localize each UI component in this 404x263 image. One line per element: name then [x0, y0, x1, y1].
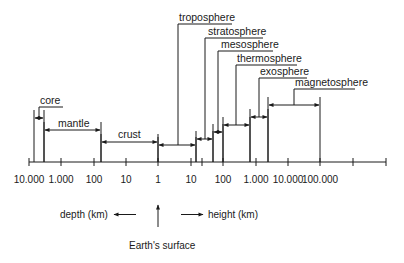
layer-label: troposphere — [179, 11, 235, 23]
layer-label: stratosphere — [208, 25, 267, 37]
axis-tick-label: 10.000 — [273, 174, 304, 185]
axis-tick-label: 1 — [155, 174, 161, 185]
layer-label: crust — [118, 128, 141, 140]
layer-label: thermosphere — [237, 52, 302, 64]
axis-tick-label: 100 — [86, 174, 103, 185]
earth-atmosphere-layers-diagram: coremantlecrusttropospherestratosphereme… — [0, 0, 404, 263]
axis-tick-label: 100.000 — [302, 174, 339, 185]
layer-label: mesosphere — [221, 38, 279, 50]
log-scale-axis: 10.0001.000100101101001.00010.000100.000 — [14, 158, 386, 185]
axis-tick-label: 1.000 — [243, 174, 268, 185]
layer-mantle: mantle — [44, 117, 101, 162]
direction-legend: depth (km) height (km) Earth's surface — [60, 205, 258, 251]
layer-spans: coremantlecrusttropospherestratosphereme… — [34, 11, 368, 162]
layer-label: mantle — [58, 117, 90, 129]
axis-tick-label: 100 — [215, 174, 232, 185]
axis-tick-label: 10 — [185, 174, 197, 185]
axis-tick-label: 1.000 — [48, 174, 73, 185]
depth-label: depth (km) — [60, 209, 108, 220]
layer-label: magnetosphere — [295, 76, 368, 88]
height-label: height (km) — [208, 209, 258, 220]
layer-label: core — [40, 94, 61, 106]
earths-surface-label: Earth's surface — [129, 240, 196, 251]
axis-tick-label: 10.000 — [14, 174, 45, 185]
leader-line — [294, 89, 355, 105]
axis-tick-label: 10 — [120, 174, 132, 185]
layer-crust: crust — [101, 128, 158, 162]
layer-magnetosphere: magnetosphere — [268, 76, 368, 162]
